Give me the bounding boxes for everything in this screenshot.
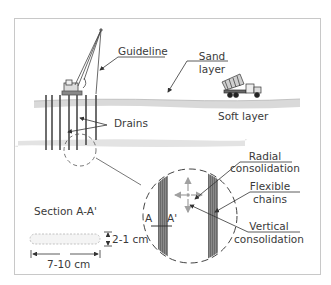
label-vertical-1: Vertical xyxy=(234,220,304,232)
label-sand-layer-2: layer xyxy=(194,63,230,75)
label-radial-2: consolidation xyxy=(230,162,300,174)
width-dimension xyxy=(31,250,100,258)
label-section: Section A-A' xyxy=(34,205,97,217)
label-section-a-prime: A' xyxy=(167,212,177,224)
thickness-dimension xyxy=(104,232,112,246)
soft-layer-band xyxy=(15,139,248,147)
label-drains: Drains xyxy=(114,117,148,129)
crane-rig-icon xyxy=(62,29,102,95)
label-width: 7-10 cm xyxy=(47,258,90,270)
label-thickness: 2-1 cm xyxy=(112,233,149,245)
label-flexible-2: chains xyxy=(240,193,300,205)
label-section-a: A xyxy=(145,212,152,224)
label-flexible-1: Flexible xyxy=(240,180,300,192)
label-sand-layer-1: Sand xyxy=(194,50,230,62)
drain-cross-section xyxy=(30,234,100,244)
sand-layer xyxy=(34,99,300,109)
dump-truck-icon xyxy=(222,74,261,98)
label-soft-layer: Soft layer xyxy=(218,110,268,122)
label-radial-1: Radial xyxy=(230,150,300,162)
label-guideline: Guideline xyxy=(118,45,168,57)
zoom-connector-line xyxy=(96,158,141,185)
magnified-detail xyxy=(143,165,237,270)
label-vertical-2: consolidation xyxy=(234,233,304,245)
